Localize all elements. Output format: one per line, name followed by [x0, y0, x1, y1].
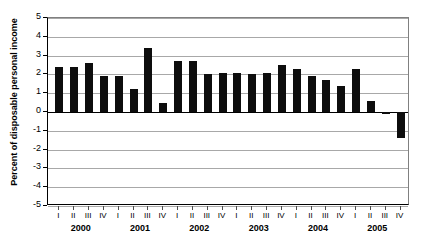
x-tick-mark	[400, 206, 401, 210]
bar	[55, 67, 63, 112]
x-tick-mark	[325, 206, 326, 210]
y-tick-label: 1	[17, 87, 41, 96]
bar	[263, 73, 271, 112]
y-tick-label: -5	[17, 200, 41, 209]
bar	[397, 112, 405, 138]
gridline--3	[48, 168, 408, 169]
x-tick-mark	[340, 206, 341, 210]
x-axis-year-label: 2003	[239, 223, 279, 233]
x-tick-mark	[385, 206, 386, 210]
gridline--4	[48, 187, 408, 188]
bar	[278, 65, 286, 112]
x-axis-year-label: 2005	[357, 223, 397, 233]
x-tick-mark	[207, 206, 208, 210]
bar	[159, 103, 167, 112]
bar	[219, 73, 227, 112]
y-tick-label: 3	[17, 50, 41, 59]
y-tick-mark	[43, 205, 47, 206]
gridline-0	[48, 112, 408, 113]
x-tick-mark	[162, 206, 163, 210]
y-tick-label: 4	[17, 31, 41, 40]
gridline-4	[48, 37, 408, 38]
x-tick-mark	[147, 206, 148, 210]
y-tick-label: -2	[17, 144, 41, 153]
x-tick-mark	[355, 206, 356, 210]
gridline-3	[48, 56, 408, 57]
gridline-5	[48, 18, 408, 19]
plot-area	[47, 17, 409, 205]
x-tick-mark	[296, 206, 297, 210]
x-tick-mark	[177, 206, 178, 210]
bar	[308, 76, 316, 112]
bar	[382, 112, 390, 114]
x-axis-year-label: 2001	[120, 223, 160, 233]
bar	[130, 89, 138, 112]
bar	[337, 86, 345, 112]
x-tick-mark	[88, 206, 89, 210]
bar	[115, 76, 123, 112]
gridline--1	[48, 131, 408, 132]
x-tick-mark	[370, 206, 371, 210]
y-tick-label: -4	[17, 181, 41, 190]
x-tick-mark	[118, 206, 119, 210]
gridline--2	[48, 150, 408, 151]
x-tick-mark	[266, 206, 267, 210]
bar	[367, 101, 375, 112]
bar	[174, 61, 182, 112]
x-tick-mark	[73, 206, 74, 210]
x-axis-year-label: 2000	[61, 223, 101, 233]
bar	[248, 74, 256, 112]
bar	[100, 76, 108, 112]
bar	[144, 48, 152, 112]
x-tick-mark	[133, 206, 134, 210]
x-tick-mark	[236, 206, 237, 210]
y-tick-label: 0	[17, 106, 41, 115]
bar	[322, 80, 330, 112]
x-axis-year-label: 2004	[298, 223, 338, 233]
bar	[70, 67, 78, 112]
y-tick-label: -1	[17, 125, 41, 134]
x-tick-mark	[103, 206, 104, 210]
x-tick-mark	[192, 206, 193, 210]
bar	[189, 61, 197, 112]
x-tick-mark	[251, 206, 252, 210]
savings-rate-bar-chart: Percent of disposable personal income 54…	[0, 0, 431, 240]
y-tick-label: 2	[17, 68, 41, 77]
x-tick-mark	[58, 206, 59, 210]
bar	[293, 69, 301, 112]
x-tick-label-quarter: IV	[390, 211, 410, 220]
bar	[233, 73, 241, 112]
bar	[85, 63, 93, 112]
x-tick-mark	[222, 206, 223, 210]
y-tick-label: 5	[17, 12, 41, 21]
x-tick-mark	[281, 206, 282, 210]
bar	[352, 69, 360, 112]
gridline--5	[48, 206, 408, 207]
bar	[204, 74, 212, 112]
x-tick-mark	[311, 206, 312, 210]
y-tick-label: -3	[17, 162, 41, 171]
x-axis-year-label: 2002	[179, 223, 219, 233]
